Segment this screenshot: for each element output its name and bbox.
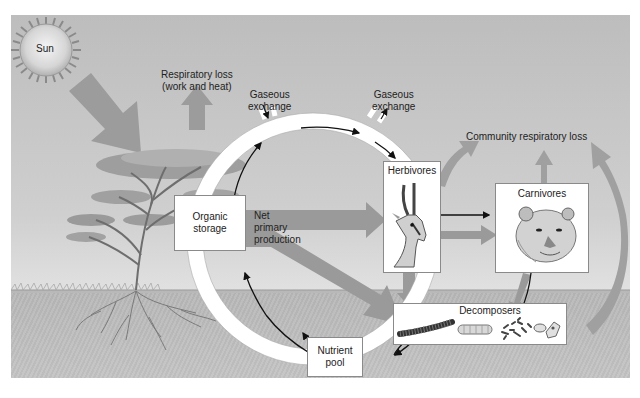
- decomposers-respiratory-arrow: [586, 142, 628, 335]
- organic-storage-box: Organic storage: [174, 195, 246, 251]
- millipede-icon: [400, 322, 452, 334]
- lioness-icon: [496, 200, 588, 270]
- organic-storage-line2: storage: [175, 223, 245, 235]
- herbivores-label: Herbivores: [384, 165, 440, 177]
- respiratory-loss-line1: Respiratory loss: [161, 69, 233, 81]
- decomposer-organisms-icon: [394, 316, 566, 342]
- herbivores-box: Herbivores: [383, 161, 441, 273]
- gaseous-exchange-right-line2: exchange: [372, 101, 415, 113]
- npp-line1: Net: [254, 210, 301, 222]
- nutrient-pool-label: Nutrient pool: [308, 345, 362, 369]
- bacteria-icon: [502, 318, 531, 339]
- nutrient-pool-line2: pool: [308, 357, 362, 369]
- net-primary-production-label: Net primary production: [254, 210, 301, 246]
- gaseous-exchange-left-line1: Gaseous: [248, 89, 291, 101]
- gaseous-exchange-right-line1: Gaseous: [372, 89, 415, 101]
- community-respiratory-loss-label: Community respiratory loss: [466, 131, 587, 143]
- sun-label: Sun: [36, 43, 54, 55]
- nutrient-pool-line1: Nutrient: [308, 345, 362, 357]
- solar-energy-arrow: [69, 73, 141, 153]
- gaseous-exchange-left-line2: exchange: [248, 101, 291, 113]
- gaseous-exchange-left-label: Gaseous exchange: [248, 89, 291, 113]
- grass-line-icon: [11, 283, 630, 290]
- respiratory-loss-line2: (work and heat): [161, 81, 233, 93]
- protozoa-icon: [534, 322, 560, 338]
- decomposers-box: Decomposers: [393, 303, 567, 345]
- carnivores-box: Carnivores: [495, 183, 589, 273]
- carnivores-label: Carnivores: [496, 188, 588, 200]
- organic-storage-label: Organic storage: [175, 211, 245, 235]
- npp-line3: production: [254, 234, 301, 246]
- ecosystem-diagram: Sun Respiratory loss (work and heat) Gas…: [11, 15, 630, 378]
- npp-line2: primary: [254, 222, 301, 234]
- herbivores-respiratory-arrow: [436, 141, 479, 187]
- herbivores-to-carnivores-energy-arrow: [441, 225, 497, 245]
- respiratory-loss-label: Respiratory loss (work and heat): [161, 69, 233, 93]
- gaseous-exchange-right-label: Gaseous exchange: [372, 89, 415, 113]
- gazelle-icon: [384, 177, 440, 269]
- organic-storage-line1: Organic: [175, 211, 245, 223]
- nutrient-pool-box: Nutrient pool: [307, 337, 363, 377]
- larva-icon: [458, 325, 492, 334]
